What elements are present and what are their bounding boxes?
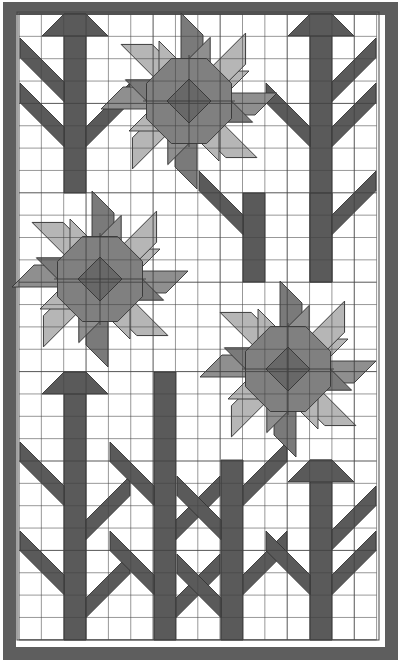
quilt-diagram bbox=[0, 0, 401, 661]
